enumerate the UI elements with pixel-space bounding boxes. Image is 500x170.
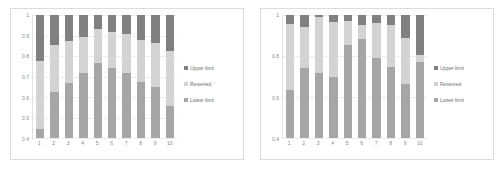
bar-group[interactable] <box>355 15 369 138</box>
stacked-bar[interactable] <box>358 15 366 138</box>
bar-group[interactable] <box>312 15 326 138</box>
stacked-bar[interactable] <box>387 15 395 138</box>
bar-group[interactable] <box>326 15 340 138</box>
legend-item-label: Upper limit <box>190 66 214 71</box>
bar-group[interactable] <box>283 15 297 138</box>
bar-group[interactable] <box>163 15 177 138</box>
bar-segment <box>122 73 130 138</box>
bar-segment <box>416 15 424 55</box>
stacked-bar[interactable] <box>372 15 380 138</box>
stacked-bar[interactable] <box>94 15 102 138</box>
stacked-bar[interactable] <box>344 15 352 138</box>
bar-segment <box>137 82 145 138</box>
right-x-tick-label: 4 <box>326 141 341 146</box>
bar-segment <box>387 15 395 25</box>
legend-item-label: Reserved <box>190 82 211 87</box>
stacked-bar[interactable] <box>122 15 130 138</box>
stacked-bar[interactable] <box>50 15 58 138</box>
left-gridline <box>33 138 177 139</box>
right-y-tick-label: 0.8 <box>272 54 279 59</box>
right-x-tick-label: 2 <box>297 141 312 146</box>
right-y-tick-label: 0.4 <box>272 137 279 142</box>
bar-group[interactable] <box>148 15 162 138</box>
bar-group[interactable] <box>398 15 412 138</box>
bar-segment <box>151 43 159 87</box>
stacked-bar[interactable] <box>286 15 294 138</box>
stacked-bar[interactable] <box>315 15 323 138</box>
stacked-bar[interactable] <box>300 15 308 138</box>
bar-group[interactable] <box>341 15 355 138</box>
bar-group[interactable] <box>33 15 47 138</box>
bar-segment <box>358 15 366 25</box>
bar-segment <box>329 22 337 77</box>
stacked-bar[interactable] <box>166 15 174 138</box>
stacked-bar[interactable] <box>36 15 44 138</box>
legend-square-marker <box>184 98 188 102</box>
bar-segment <box>65 41 73 83</box>
legend-item-label: Lower limit <box>190 98 214 103</box>
right-x-tick-label: 7 <box>369 141 384 146</box>
bar-segment <box>94 29 102 63</box>
legend-item[interactable]: Lower limit <box>184 98 243 103</box>
bar-group[interactable] <box>119 15 133 138</box>
bar-segment <box>94 15 102 29</box>
bar-group[interactable] <box>62 15 76 138</box>
bar-segment <box>401 38 409 84</box>
bar-segment <box>401 15 409 38</box>
left-x-tick-label: 5 <box>90 141 105 146</box>
left-x-tick-label: 2 <box>47 141 62 146</box>
bar-segment <box>108 68 116 138</box>
bar-segment <box>65 83 73 138</box>
bar-group[interactable] <box>91 15 105 138</box>
right-x-tick-label: 1 <box>282 141 297 146</box>
stacked-bar[interactable] <box>151 15 159 138</box>
bar-segment <box>344 45 352 138</box>
figure-two-stacked-bar-charts: 0.40.50.60.70.80.91 12345678910 Upper li… <box>0 0 500 170</box>
left-bars <box>33 15 177 138</box>
legend-square-marker <box>184 82 188 86</box>
bar-segment <box>36 129 44 138</box>
bar-segment <box>286 90 294 138</box>
legend-item[interactable]: Lower limit <box>434 98 493 103</box>
right-chart-frame: 0.40.60.81 12345678910 Upper limitReserv… <box>260 8 494 160</box>
bar-segment <box>50 92 58 138</box>
bar-group[interactable] <box>297 15 311 138</box>
legend-item[interactable]: Reserved <box>184 82 243 87</box>
right-gridline <box>283 138 427 139</box>
stacked-bar[interactable] <box>329 15 337 138</box>
bar-group[interactable] <box>384 15 398 138</box>
bar-group[interactable] <box>134 15 148 138</box>
stacked-bar[interactable] <box>401 15 409 138</box>
stacked-bar[interactable] <box>416 15 424 138</box>
bar-group[interactable] <box>369 15 383 138</box>
right-chart-panel: 0.40.60.81 12345678910 Upper limitReserv… <box>250 0 500 170</box>
bar-segment <box>372 15 380 23</box>
legend-item[interactable]: Upper limit <box>184 66 243 71</box>
left-x-tick-label: 8 <box>134 141 149 146</box>
left-x-tick-label: 9 <box>148 141 163 146</box>
legend-item[interactable]: Reserved <box>434 82 493 87</box>
right-bars <box>283 15 427 138</box>
bar-segment <box>166 15 174 51</box>
left-x-tick-label: 3 <box>61 141 76 146</box>
bar-segment <box>108 32 116 67</box>
bar-group[interactable] <box>105 15 119 138</box>
legend-item[interactable]: Upper limit <box>434 66 493 71</box>
right-x-tick-label: 3 <box>311 141 326 146</box>
bar-segment <box>79 37 87 74</box>
stacked-bar[interactable] <box>79 15 87 138</box>
bar-segment <box>79 73 87 138</box>
left-plot-area <box>32 15 177 139</box>
legend-square-marker <box>434 98 438 102</box>
bar-segment <box>372 58 380 138</box>
stacked-bar[interactable] <box>137 15 145 138</box>
bar-segment <box>79 15 87 37</box>
stacked-bar[interactable] <box>108 15 116 138</box>
bar-group[interactable] <box>413 15 427 138</box>
left-x-axis: 12345678910 <box>32 141 177 155</box>
bar-group[interactable] <box>47 15 61 138</box>
bar-segment <box>151 87 159 138</box>
bar-segment <box>94 63 102 138</box>
stacked-bar[interactable] <box>65 15 73 138</box>
bar-group[interactable] <box>76 15 90 138</box>
